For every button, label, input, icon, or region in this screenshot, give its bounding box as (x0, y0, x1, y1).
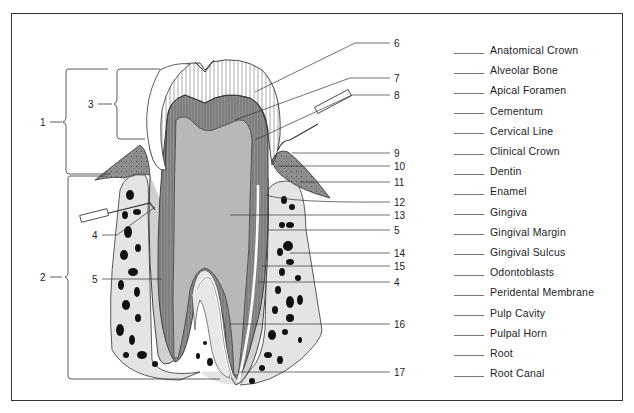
label-5-right: 5 (394, 225, 400, 236)
answer-blank[interactable] (454, 133, 484, 134)
label-11: 11 (394, 177, 405, 188)
term-label: Peridental Membrane (490, 286, 594, 298)
term-label: Cervical Line (490, 125, 553, 137)
term-label: Anatomical Crown (490, 44, 578, 56)
term-item: Odontoblasts (454, 262, 619, 282)
label-15: 15 (394, 261, 406, 272)
answer-blank[interactable] (454, 254, 484, 255)
bracket-1 (50, 69, 110, 174)
answer-blank[interactable] (454, 113, 484, 114)
answer-blank[interactable] (454, 234, 484, 235)
term-label: Apical Foramen (490, 84, 566, 96)
label-4-left: 4 (92, 230, 98, 241)
answer-blank[interactable] (454, 214, 484, 215)
term-label: Root Canal (490, 367, 545, 379)
term-item: Alveolar Bone (454, 60, 619, 80)
label-6: 6 (394, 38, 400, 49)
term-item: Pulp Cavity (454, 302, 619, 322)
term-item: Cementum (454, 101, 619, 121)
term-label: Enamel (490, 185, 527, 197)
term-label: Cementum (490, 105, 543, 117)
term-item: Peridental Membrane (454, 282, 619, 302)
term-label: Pulpal Horn (490, 327, 547, 339)
term-item: Cervical Line (454, 121, 619, 141)
term-item: Root Canal (454, 363, 619, 383)
term-label: Clinical Crown (490, 145, 560, 157)
label-1: 1 (40, 117, 46, 128)
label-7: 7 (394, 73, 400, 84)
answer-blank[interactable] (454, 275, 484, 276)
term-label: Alveolar Bone (490, 64, 558, 76)
term-list: Anatomical Crown Alveolar Bone Apical Fo… (454, 40, 619, 383)
term-item: Dentin (454, 161, 619, 181)
answer-blank[interactable] (454, 194, 484, 195)
label-10: 10 (394, 161, 406, 172)
label-14: 14 (394, 248, 406, 259)
term-item: Gingiva (454, 202, 619, 222)
answer-blank[interactable] (454, 154, 484, 155)
label-3: 3 (88, 99, 94, 110)
answer-blank[interactable] (454, 355, 484, 356)
answer-blank[interactable] (454, 174, 484, 175)
term-item: Gingival Sulcus (454, 242, 619, 262)
term-item: Pulpal Horn (454, 323, 619, 343)
label-8: 8 (394, 90, 400, 101)
term-item: Gingival Margin (454, 222, 619, 242)
term-label: Odontoblasts (490, 266, 554, 278)
term-item: Clinical Crown (454, 141, 619, 161)
term-label: Gingival Sulcus (490, 246, 565, 258)
label-9: 9 (394, 148, 400, 159)
label-12: 12 (394, 197, 406, 208)
answer-blank[interactable] (454, 376, 484, 377)
label-5-left: 5 (92, 274, 98, 285)
answer-blank[interactable] (454, 73, 484, 74)
term-item: Anatomical Crown (454, 40, 619, 60)
term-item: Enamel (454, 181, 619, 201)
answer-blank[interactable] (454, 315, 484, 316)
term-item: Root (454, 343, 619, 363)
answer-blank[interactable] (454, 295, 484, 296)
label-4-right: 4 (394, 277, 400, 288)
dental-probe-right (278, 90, 351, 150)
label-17: 17 (394, 367, 406, 378)
term-label: Pulp Cavity (490, 307, 545, 319)
answer-blank[interactable] (454, 93, 484, 94)
term-label: Gingiva (490, 206, 527, 218)
label-16: 16 (394, 319, 406, 330)
term-label: Root (490, 347, 513, 359)
term-item: Apical Foramen (454, 80, 619, 100)
answer-blank[interactable] (454, 53, 484, 54)
term-label: Gingival Margin (490, 226, 566, 238)
term-label: Dentin (490, 165, 522, 177)
answer-blank[interactable] (454, 335, 484, 336)
label-2: 2 (40, 272, 46, 283)
label-13: 13 (394, 210, 406, 221)
